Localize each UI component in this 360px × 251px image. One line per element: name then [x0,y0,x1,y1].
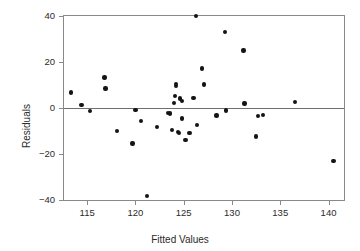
data-point [194,14,198,18]
data-point [223,30,227,34]
y-axis-tick-label: −20 [39,149,55,159]
data-point [88,109,92,113]
data-point [130,141,134,145]
data-point [155,125,159,129]
y-axis-tick [59,16,64,17]
data-point [139,119,143,123]
data-point [145,194,149,198]
x-axis-tick-label: 125 [176,208,192,218]
x-axis-tick-label: 115 [80,208,95,218]
y-axis-tick-label: −40 [39,195,55,205]
data-point [242,101,246,105]
data-point [200,66,204,70]
zero-reference-line [64,108,344,109]
x-axis-tick [184,200,185,205]
data-point [202,82,206,86]
x-axis-tick-label: 135 [272,208,288,218]
data-point [79,103,83,107]
data-point [173,94,177,98]
data-point [177,131,181,135]
data-point [183,138,187,142]
data-point [254,134,258,138]
x-axis-tick-label: 130 [224,208,240,218]
x-axis-tick [232,200,233,205]
plot-frame: 40200−20−40115120125130135140 [63,15,345,201]
data-point [187,131,191,135]
x-axis-label: Fitted Values [0,234,360,245]
data-point [241,48,245,52]
data-point [293,100,297,104]
data-point [168,111,172,115]
data-point [102,75,106,79]
y-axis-tick-label: 40 [44,11,55,21]
data-point [256,114,260,118]
data-point [170,128,174,132]
data-point [172,101,176,105]
x-axis-tick-label: 140 [321,208,337,218]
residual-plot-figure: Residuals 40200−20−40115120125130135140 … [0,0,360,251]
data-point [331,159,335,163]
y-axis-tick-label: 0 [50,103,55,113]
x-axis-tick [135,200,136,205]
y-axis-tick [59,154,64,155]
data-point [180,99,184,103]
data-point [180,116,184,120]
data-point [261,113,265,117]
data-point [214,113,218,117]
data-point [195,123,199,127]
data-point [103,86,107,90]
y-axis-tick-label: 20 [44,57,55,67]
data-point [224,108,228,112]
data-point [191,96,195,100]
data-point [69,90,73,94]
x-axis-tick [87,200,88,205]
y-axis-tick [59,200,64,201]
data-point [133,108,137,112]
y-axis-tick [59,108,64,109]
x-axis-tick [280,200,281,205]
x-axis-tick-label: 120 [128,208,144,218]
x-axis-tick [329,200,330,205]
y-axis-tick [59,62,64,63]
y-axis-label: Residuals [21,104,32,148]
data-point [115,129,119,133]
plot-area [64,16,344,200]
